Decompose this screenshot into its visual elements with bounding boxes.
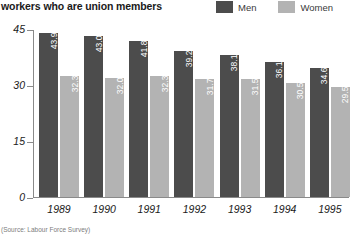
bar-women-1989[interactable]: 32.3%: [60, 76, 79, 197]
bar-value-label: 34.6%: [319, 68, 329, 84]
bar-group: 41.8%32.3%: [129, 29, 169, 197]
bar-groups: 43.9%32.3%43.0%32.0%41.8%32.3%39.2%31.7%…: [33, 22, 349, 198]
bar-value-label: 32.0%: [115, 78, 125, 94]
bar-men-1995[interactable]: 34.6%: [310, 68, 329, 197]
x-axis-tick-label-1992: 1992: [169, 203, 219, 215]
bar-value-label: 41.8%: [139, 41, 149, 57]
page-title: workers who are union members: [0, 0, 162, 13]
bar-group: 34.6%29.5%: [310, 29, 350, 197]
chart-header: workers who are union members Men Women: [0, 0, 351, 18]
bar-value-label: 38.1%: [229, 55, 239, 71]
y-axis-tick-mark: [27, 30, 33, 31]
bar-women-1992[interactable]: 31.7%: [195, 79, 214, 197]
x-axis-tick-label-1991: 1991: [124, 203, 174, 215]
y-axis-tick-label: 15: [1, 135, 25, 147]
bar-women-1995[interactable]: 29.5%: [331, 87, 350, 197]
bar-value-label: 36.1%: [274, 62, 284, 78]
y-axis-tick-label: 30: [1, 79, 25, 91]
y-axis-tick-mark: [27, 198, 33, 199]
legend-item-women[interactable]: Women: [278, 1, 333, 13]
legend-label-women: Women: [300, 2, 333, 13]
bar-value-label: 39.2%: [184, 51, 194, 67]
legend-item-men[interactable]: Men: [216, 1, 256, 13]
x-axis-tick-label-1993: 1993: [215, 203, 265, 215]
bar-women-1994[interactable]: 30.5%: [286, 83, 305, 197]
legend-swatch-men: [216, 1, 233, 13]
x-axis-tick-label-1990: 1990: [79, 203, 129, 215]
bar-group: 43.9%32.3%: [39, 29, 79, 197]
x-axis-tick-label-1995: 1995: [305, 203, 351, 215]
legend-label-men: Men: [238, 2, 256, 13]
y-axis-tick-labels: 0153045: [0, 22, 25, 202]
bar-value-label: 31.7%: [205, 79, 215, 95]
y-axis-tick-label: 45: [1, 23, 25, 35]
y-axis-tick-mark: [27, 86, 33, 87]
bar-value-label: 32.3%: [70, 76, 80, 92]
x-axis-tick-label-1994: 1994: [260, 203, 310, 215]
y-axis-tick-label: 0: [1, 191, 25, 203]
bar-women-1990[interactable]: 32.0%: [105, 78, 124, 197]
chart-plot-area: 0153045 43.9%32.3%43.0%32.0%41.8%32.3%39…: [0, 22, 351, 202]
bar-men-1989[interactable]: 43.9%: [39, 33, 58, 197]
legend-swatch-women: [278, 1, 295, 13]
bar-men-1990[interactable]: 43.0%: [84, 36, 103, 197]
bar-women-1991[interactable]: 32.3%: [150, 76, 169, 197]
bar-value-label: 30.5%: [295, 83, 305, 99]
source-note: (Source: Labour Force Survey): [1, 226, 90, 233]
bar-men-1992[interactable]: 39.2%: [174, 51, 193, 197]
x-axis-tick-label-1989: 1989: [34, 203, 84, 215]
bar-men-1994[interactable]: 36.1%: [265, 62, 284, 197]
bar-women-1993[interactable]: 31.5%: [241, 79, 260, 197]
bar-value-label: 43.9%: [49, 33, 59, 49]
chart-legend: Men Women: [216, 1, 333, 13]
bar-group: 39.2%31.7%: [174, 29, 214, 197]
bar-group: 38.1%31.5%: [220, 29, 260, 197]
bar-men-1991[interactable]: 41.8%: [129, 41, 148, 197]
bar-value-label: 31.5%: [250, 79, 260, 95]
bar-value-label: 43.0%: [94, 36, 104, 52]
bar-value-label: 29.5%: [340, 87, 350, 103]
bar-value-label: 32.3%: [160, 76, 170, 92]
x-axis-tick-labels: 1989199019911992199319941995: [33, 203, 349, 219]
bar-group: 43.0%32.0%: [84, 29, 124, 197]
y-axis-tick-mark: [27, 142, 33, 143]
bar-men-1993[interactable]: 38.1%: [220, 55, 239, 197]
bar-group: 36.1%30.5%: [265, 29, 305, 197]
